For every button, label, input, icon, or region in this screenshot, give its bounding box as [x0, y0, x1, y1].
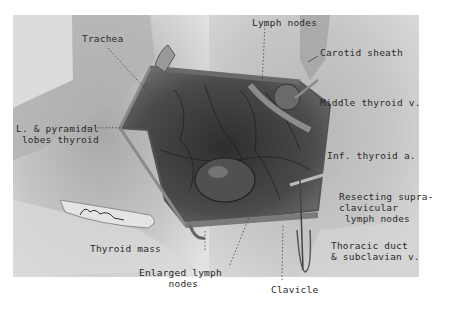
label-trachea: Trachea [82, 33, 123, 44]
label-clavicle: Clavicle [271, 284, 318, 295]
label-pyramidal-lobes: L. & pyramidal lobes thyroid [16, 123, 99, 145]
label-thoracic-duct: Thoracic duct & subclavian v. [331, 240, 420, 262]
label-enlarged-lymph-nodes: Enlarged lymph nodes [139, 267, 222, 289]
label-lymph-nodes: Lymph nodes [252, 17, 317, 28]
label-inf-thyroid-a: Inf. thyroid a. [327, 150, 416, 161]
label-carotid-sheath: Carotid sheath [320, 47, 403, 58]
label-middle-thyroid-v: Middle thyroid v. [320, 97, 421, 108]
label-resecting-supraclavicular: Resecting supra- clavicular lymph nodes [339, 191, 434, 224]
label-thyroid-mass: Thyroid mass [90, 243, 161, 254]
